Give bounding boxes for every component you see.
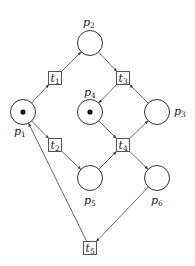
- token-icon: [20, 109, 25, 114]
- arc-p1-to-t1: [32, 85, 49, 103]
- arc-p5-to-t4: [99, 152, 117, 170]
- petri-net-diagram: p1p2p3p4p5p6 t1t2t3t4t5: [0, 0, 195, 266]
- arc-p3-to-t3: [130, 85, 149, 104]
- place-p2: p2: [78, 16, 103, 56]
- arc-t4-to-p6: [130, 151, 149, 169]
- transition-t4: t4: [117, 139, 130, 153]
- arc-p1-to-t2: [32, 121, 49, 139]
- arc-t4-to-p3: [130, 121, 149, 139]
- place-label-p2: p2: [83, 16, 95, 30]
- arc-p2-to-t3: [99, 52, 117, 71]
- place-p4: p4: [78, 86, 103, 125]
- place-p1: p1: [11, 100, 36, 140]
- place-circle: [145, 166, 170, 191]
- arc-t2-to-p5: [62, 151, 81, 169]
- transition-t5: t5: [84, 242, 97, 256]
- transition-t1: t1: [49, 72, 62, 86]
- place-circle: [145, 100, 170, 125]
- transition-t3: t3: [117, 72, 130, 86]
- arc-p4-to-t4: [99, 121, 117, 139]
- arc-t1-to-p2: [62, 52, 82, 72]
- arc-p6-to-t5: [96, 187, 148, 241]
- place-label-p4: p4: [84, 86, 96, 100]
- place-p6: p6: [145, 166, 170, 209]
- places-layer: p1p2p3p4p5p6: [11, 16, 187, 208]
- transition-t2: t2: [49, 139, 62, 153]
- place-p3: p3: [145, 100, 187, 125]
- place-label-p6: p6: [151, 194, 163, 208]
- arcs-layer: [29, 52, 149, 242]
- place-label-p5: p5: [84, 194, 96, 208]
- place-label-p3: p3: [174, 105, 186, 119]
- arc-t3-to-p4: [99, 85, 117, 104]
- token-icon: [87, 109, 92, 114]
- place-circle: [78, 166, 103, 191]
- place-label-p1: p1: [14, 125, 26, 139]
- place-p5: p5: [78, 166, 103, 209]
- place-circle: [78, 31, 103, 56]
